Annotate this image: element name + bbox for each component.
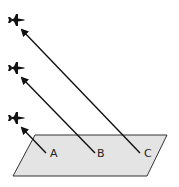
point-label-b: B xyxy=(97,147,105,160)
airplane-icon xyxy=(8,112,25,124)
point-label-a: A xyxy=(50,147,58,160)
point-label-c: C xyxy=(144,147,152,160)
diagram-canvas: A B C xyxy=(0,0,179,187)
airplane-icon xyxy=(8,14,25,26)
airplane-icon xyxy=(8,62,25,74)
